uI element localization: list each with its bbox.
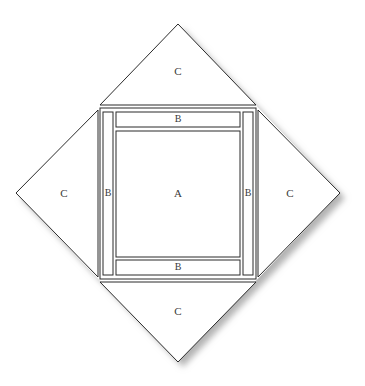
triangle-c-right-shape (258, 110, 340, 277)
triangle-c-right (258, 110, 340, 277)
triangle-c-left-shape (16, 110, 98, 277)
label-strip-b-right: B (245, 187, 252, 198)
label-region-a: A (174, 187, 182, 199)
label-strip-b-left: B (105, 187, 112, 198)
label-triangle-c-right: C (286, 187, 293, 199)
label-triangle-c-left: C (60, 187, 67, 199)
triangle-c-left (16, 110, 98, 277)
label-strip-b-top: B (175, 113, 182, 124)
label-triangle-c-top: C (174, 65, 181, 77)
triangle-c-bottom (100, 282, 256, 362)
diagram-svg: A B B B B C C C C (0, 0, 365, 386)
label-triangle-c-bottom: C (174, 305, 181, 317)
triangle-c-bottom-shape (100, 282, 256, 362)
label-strip-b-bottom: B (175, 261, 182, 272)
diagram-canvas: A B B B B C C C C (0, 0, 365, 386)
